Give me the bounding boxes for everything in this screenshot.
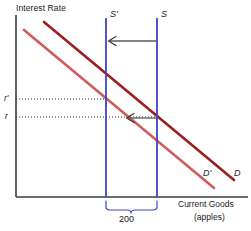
y-axis-title: Interest Rate (16, 4, 66, 13)
y-tick-label-r-prime: r' (4, 94, 8, 103)
x-axis-title-line1: Current Goods (178, 200, 234, 209)
demand-curve-d-prime (24, 30, 214, 188)
supply-new-label: S' (110, 10, 118, 19)
chart-canvas (0, 0, 251, 231)
x-axis-title-line2: (apples) (194, 213, 225, 222)
y-tick-label-r: r (5, 112, 8, 121)
shift-amount-label: 200 (119, 215, 134, 224)
demand-curve-d (44, 22, 234, 180)
demand-original-label: D (234, 169, 241, 178)
equilibrium-shift-arrow (127, 114, 158, 123)
supply-original-label: S (161, 10, 167, 19)
supply-shift-arrow (109, 37, 158, 46)
chart-figure: Interest Rate S' S r' r D' D 200 Current… (0, 0, 251, 231)
shift-brace (106, 201, 157, 213)
demand-new-label: D' (203, 169, 211, 178)
